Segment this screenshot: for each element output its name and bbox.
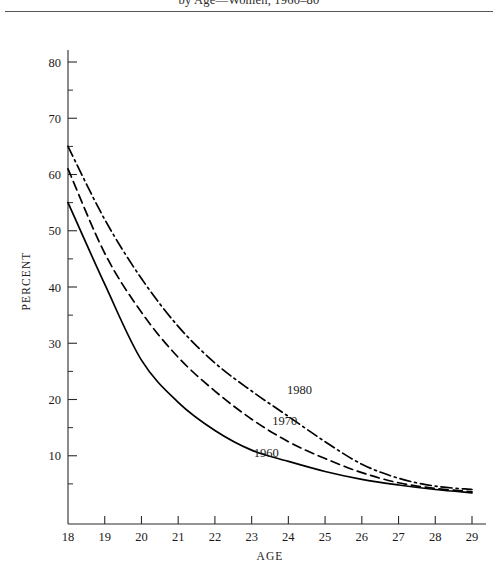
y-tick-label: 80 (49, 56, 62, 70)
y-tick-label: 20 (49, 393, 62, 407)
series-annotations: 198019701960 (254, 383, 312, 460)
x-tick-label: 24 (282, 530, 295, 544)
x-tick-label: 23 (245, 530, 258, 544)
x-tick-label: 19 (98, 530, 111, 544)
y-tick-label: 10 (49, 449, 62, 463)
x-axis: 181920212223242526272829 (62, 516, 486, 544)
x-tick-label: 21 (172, 530, 185, 544)
y-tick-label: 60 (49, 168, 62, 182)
y-axis: 1020304050607080 (49, 50, 78, 524)
series-label-1960: 1960 (254, 446, 279, 460)
x-tick-label: 20 (135, 530, 148, 544)
x-tick-label: 27 (392, 530, 405, 544)
y-tick-label: 50 (49, 224, 62, 238)
series-line-1970 (68, 169, 472, 492)
series-label-1980: 1980 (287, 383, 312, 397)
page-title: by Age—Women, 1960–80 (0, 0, 498, 8)
title-band: by Age—Women, 1960–80 (0, 0, 498, 11)
x-tick-label: 22 (209, 530, 222, 544)
x-tick-label: 25 (319, 530, 332, 544)
line-chart: 1020304050607080 18192021222324252627282… (0, 12, 498, 571)
series-label-1970: 1970 (272, 414, 297, 428)
y-axis-title: PERCENT (20, 252, 32, 311)
y-tick-label: 70 (49, 112, 62, 126)
y-tick-label: 40 (49, 281, 62, 295)
x-tick-label: 26 (356, 530, 369, 544)
chart-container: 1020304050607080 18192021222324252627282… (0, 12, 498, 571)
series-lines (68, 146, 472, 493)
x-axis-title: AGE (257, 550, 284, 562)
y-tick-label: 30 (49, 337, 62, 351)
x-tick-label: 18 (62, 530, 75, 544)
x-tick-label: 28 (429, 530, 442, 544)
series-line-1980 (68, 146, 472, 489)
x-tick-label: 29 (466, 530, 479, 544)
